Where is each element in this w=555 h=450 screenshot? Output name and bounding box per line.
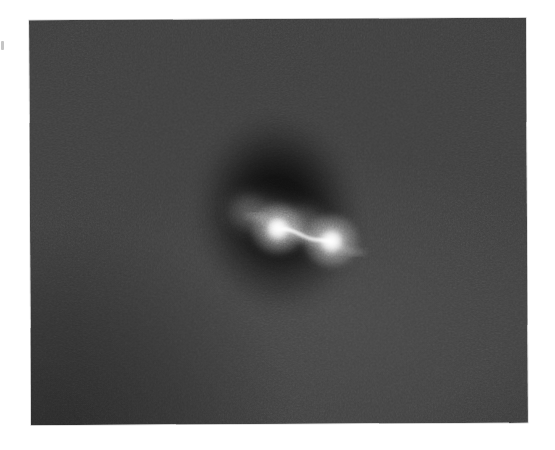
- image-panel: [29, 18, 528, 425]
- image-plate: [29, 18, 528, 425]
- figure-page: [0, 0, 555, 450]
- scan-speck-artifact: [1, 41, 4, 50]
